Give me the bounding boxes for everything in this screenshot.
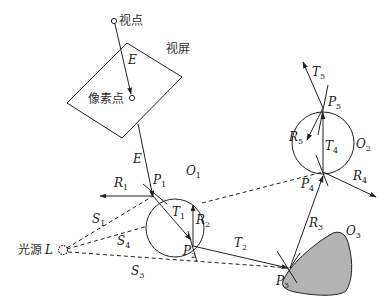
label-pixel: 像素点 — [88, 92, 124, 106]
view-screen — [67, 43, 182, 138]
label-p4: P4 — [300, 177, 314, 193]
normal-p4 — [316, 155, 328, 186]
label-s1: S1 — [92, 212, 105, 228]
label-o2: O2 — [356, 137, 371, 153]
label-s3: S3 — [131, 264, 144, 280]
label-t4: T4 — [325, 139, 338, 155]
label-e1: E — [127, 53, 137, 67]
label-e2: E — [132, 152, 142, 166]
viewpoint-marker — [111, 18, 116, 23]
shadow-ray-s1 — [67, 196, 153, 248]
label-screen: 视屏 — [166, 41, 190, 56]
label-r4: R4 — [352, 169, 367, 185]
light-source-marker — [59, 246, 68, 255]
label-o1: O1 — [186, 164, 201, 180]
label-r5: R5 — [288, 130, 303, 146]
pixel-marker — [129, 95, 134, 100]
label-s4: S4 — [117, 234, 130, 250]
label-r1: R1 — [113, 176, 128, 192]
shadow-ray-s3 — [68, 252, 290, 268]
label-r2: R2 — [195, 213, 210, 229]
label-t2: T2 — [234, 236, 247, 252]
ray-r4 — [323, 172, 376, 197]
label-t5: T5 — [312, 65, 325, 81]
label-t1: T1 — [172, 205, 185, 221]
label-r3: R3 — [308, 216, 323, 232]
ray-tracing-diagram: 视点 视屏 像素点 E E P1 O1 R1 T1 R2 P2 T2 S1 S4… — [0, 0, 390, 305]
label-p1: P1 — [152, 173, 166, 189]
shadow-ray-s4 — [67, 226, 148, 249]
label-p5: P5 — [327, 95, 341, 111]
label-viewpoint: 视点 — [119, 13, 143, 28]
label-light-source: 光源L — [18, 243, 53, 257]
label-o3: O3 — [346, 224, 361, 240]
